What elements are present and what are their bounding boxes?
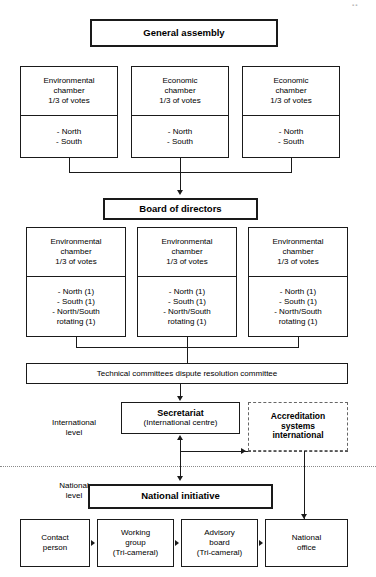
label-national-level: National level: [35, 481, 113, 501]
node-working-group[interactable]: Working group (Tri-cameral): [97, 519, 174, 567]
chamber-members: - North (1) - South (1) - North/South ro…: [249, 277, 347, 336]
node-board-of-directors[interactable]: Board of directors: [103, 198, 258, 220]
node-assembly-chamber-1[interactable]: Environmental chamber 1/3 of votes - Nor…: [20, 66, 118, 158]
chamber-name: Environmental chamber 1/3 of votes: [249, 228, 347, 277]
connector-line: [180, 451, 181, 478]
node-advisory-board[interactable]: Advisory board (Tri-cameral): [181, 519, 258, 567]
node-contact-person[interactable]: Contact person: [20, 519, 90, 567]
arrowhead-right-icon: [91, 540, 95, 546]
arrowhead-right-icon: [175, 540, 179, 546]
general-assembly-label: General assembly: [143, 28, 224, 39]
chamber-name: Environmental chamber 1/3 of votes: [21, 67, 117, 116]
technical-committees-label: Technical committees dispute resolution …: [97, 369, 278, 379]
connector-line: [304, 451, 305, 519]
accreditation-label: Accreditation systems international: [271, 412, 325, 441]
node-assembly-chamber-3[interactable]: Economic chamber 1/3 of votes - North - …: [242, 66, 340, 158]
connector-line: [180, 158, 181, 172]
arrowhead-down-icon: [177, 476, 183, 481]
contact-person-label: Contact person: [41, 533, 69, 553]
connector-line-dashed: [248, 451, 348, 452]
node-secretariat[interactable]: Secretariat (International centre): [121, 402, 240, 434]
level-divider: [0, 466, 376, 467]
chamber-members: - North - South: [243, 116, 339, 157]
chamber-members: - North (1) - South (1) - North/South ro…: [138, 277, 236, 336]
connector-line: [187, 337, 188, 347]
scan-artifact: ▪▪: [352, 2, 358, 8]
connector-line: [180, 440, 181, 451]
node-technical-committees[interactable]: Technical committees dispute resolution …: [26, 363, 348, 384]
national-initiative-label: National initiative: [141, 491, 220, 502]
node-national-office[interactable]: National office: [265, 519, 348, 567]
secretariat-sublabel: (International centre): [144, 419, 218, 428]
connector-line: [298, 337, 299, 347]
chamber-members: - North - South: [21, 116, 117, 157]
connector-line: [180, 451, 248, 452]
arrowhead-right-icon: [259, 540, 263, 546]
board-of-directors-label: Board of directors: [139, 204, 221, 215]
chamber-members: - North - South: [132, 116, 228, 157]
chamber-members: - North (1) - South (1) - North/South ro…: [27, 277, 125, 336]
connector-line: [187, 347, 188, 363]
label-international-level: International level: [35, 418, 113, 438]
node-board-chamber-1[interactable]: Environmental chamber 1/3 of votes - Nor…: [26, 227, 126, 337]
node-board-chamber-2[interactable]: Environmental chamber 1/3 of votes - Nor…: [137, 227, 237, 337]
connector-line: [180, 172, 181, 192]
chamber-name: Environmental chamber 1/3 of votes: [27, 228, 125, 277]
working-group-label: Working group (Tri-cameral): [113, 528, 158, 558]
node-board-chamber-3[interactable]: Environmental chamber 1/3 of votes - Nor…: [248, 227, 348, 337]
connector-line: [291, 158, 292, 172]
node-assembly-chamber-2[interactable]: Economic chamber 1/3 of votes - North - …: [131, 66, 229, 158]
arrowhead-down-icon: [177, 396, 183, 401]
arrowhead-down-icon: [177, 190, 183, 195]
node-accreditation-systems[interactable]: Accreditation systems international: [248, 402, 348, 451]
arrowhead-up-icon: [177, 435, 183, 440]
connector-line: [76, 337, 77, 347]
node-national-initiative[interactable]: National initiative: [88, 484, 273, 509]
arrowhead-right-icon: [241, 448, 246, 454]
node-general-assembly[interactable]: General assembly: [90, 19, 278, 47]
chamber-name: Environmental chamber 1/3 of votes: [138, 228, 236, 277]
chamber-name: Economic chamber 1/3 of votes: [243, 67, 339, 116]
chamber-name: Economic chamber 1/3 of votes: [132, 67, 228, 116]
organisational-chart: ▪▪ General assembly Environmental chambe…: [0, 0, 376, 577]
advisory-board-label: Advisory board (Tri-cameral): [197, 528, 242, 558]
connector-line: [69, 158, 70, 172]
national-office-label: National office: [292, 533, 321, 553]
